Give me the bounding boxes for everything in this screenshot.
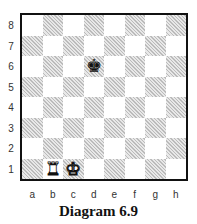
square-h8: [166, 15, 187, 36]
square-g4: [145, 97, 166, 118]
square-c7: [63, 36, 84, 57]
square-e1: [104, 159, 125, 180]
square-a3: [22, 118, 43, 139]
square-f8: [125, 15, 146, 36]
square-d5: [84, 77, 105, 98]
square-c5: [63, 77, 84, 98]
square-c4: [63, 97, 84, 118]
square-g1: [145, 159, 166, 180]
square-h7: [166, 36, 187, 57]
chessboard: ♚♜♚: [20, 13, 188, 181]
square-b7: [43, 36, 64, 57]
white-king-icon: ♚: [65, 160, 81, 178]
square-h6: [166, 56, 187, 77]
square-d8: [84, 15, 105, 36]
rank-label: 7: [6, 41, 16, 52]
file-label: f: [125, 189, 146, 200]
square-b4: [43, 97, 64, 118]
square-d2: [84, 138, 105, 159]
file-label: h: [166, 189, 187, 200]
square-d7: [84, 36, 105, 57]
square-d3: [84, 118, 105, 139]
square-b8: [43, 15, 64, 36]
rank-label: 5: [6, 82, 16, 93]
square-c3: [63, 118, 84, 139]
square-e8: [104, 15, 125, 36]
square-a6: [22, 56, 43, 77]
square-a5: [22, 77, 43, 98]
square-f7: [125, 36, 146, 57]
file-label: c: [63, 189, 84, 200]
square-h3: [166, 118, 187, 139]
square-f5: [125, 77, 146, 98]
file-label: e: [104, 189, 125, 200]
square-f4: [125, 97, 146, 118]
square-h1: [166, 159, 187, 180]
square-b2: [43, 138, 64, 159]
file-label: d: [84, 189, 105, 200]
square-b1: ♜: [43, 159, 64, 180]
rank-label: 3: [6, 123, 16, 134]
square-g7: [145, 36, 166, 57]
square-g5: [145, 77, 166, 98]
square-c1: ♚: [63, 159, 84, 180]
square-a7: [22, 36, 43, 57]
square-h4: [166, 97, 187, 118]
square-g8: [145, 15, 166, 36]
rank-label: 2: [6, 143, 16, 154]
square-d4: [84, 97, 105, 118]
file-label: b: [43, 189, 64, 200]
square-e6: [104, 56, 125, 77]
square-e5: [104, 77, 125, 98]
square-e7: [104, 36, 125, 57]
square-a1: [22, 159, 43, 180]
file-label: a: [22, 189, 43, 200]
file-label: g: [145, 189, 166, 200]
square-b5: [43, 77, 64, 98]
square-g3: [145, 118, 166, 139]
square-e3: [104, 118, 125, 139]
square-f1: [125, 159, 146, 180]
square-g2: [145, 138, 166, 159]
diagram-caption: Diagram 6.9: [0, 203, 197, 220]
square-a2: [22, 138, 43, 159]
square-f6: [125, 56, 146, 77]
white-rook-icon: ♜: [45, 160, 61, 178]
square-a8: [22, 15, 43, 36]
rank-label: 4: [6, 102, 16, 113]
square-f3: [125, 118, 146, 139]
square-f2: [125, 138, 146, 159]
square-h5: [166, 77, 187, 98]
rank-label: 8: [6, 20, 16, 31]
square-c2: [63, 138, 84, 159]
square-e4: [104, 97, 125, 118]
black-king-icon: ♚: [86, 57, 102, 75]
square-a4: [22, 97, 43, 118]
square-c6: [63, 56, 84, 77]
square-d1: [84, 159, 105, 180]
square-h2: [166, 138, 187, 159]
square-g6: [145, 56, 166, 77]
square-b6: [43, 56, 64, 77]
square-b3: [43, 118, 64, 139]
square-c8: [63, 15, 84, 36]
square-e2: [104, 138, 125, 159]
square-d6: ♚: [84, 56, 105, 77]
rank-label: 6: [6, 61, 16, 72]
rank-label: 1: [6, 164, 16, 175]
